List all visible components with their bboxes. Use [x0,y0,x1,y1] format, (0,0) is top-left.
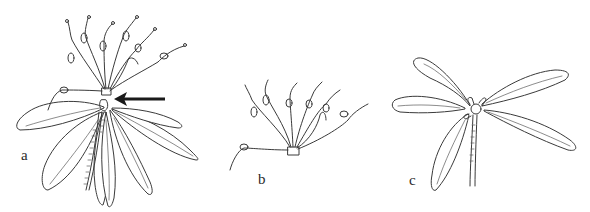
panel-c-drawing [392,58,575,190]
panel-a-drawing [17,16,198,207]
panel-a-arrow [114,92,165,106]
panel-label-b: b [258,172,266,187]
figure-drawing [0,0,590,212]
panel-label-a: a [21,148,28,163]
panel-a-flower-stalks [48,16,187,111]
panel-a-leaves [17,101,198,206]
botanical-figure: a b c [0,0,590,212]
panel-label-c: c [409,173,416,188]
panel-b-drawing [230,80,368,170]
